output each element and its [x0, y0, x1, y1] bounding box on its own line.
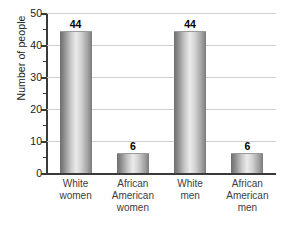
x-category-label-line: White — [158, 178, 222, 190]
y-axis-tick-labels: 01020304050 — [20, 13, 42, 173]
x-category-label-line: African — [101, 178, 165, 190]
bar-value-label: 44 — [56, 18, 96, 30]
x-category-label-line: men — [158, 190, 222, 202]
x-category-label-line: women — [101, 202, 165, 214]
bar-value-label: 6 — [227, 140, 267, 152]
x-category-label-line: African — [215, 178, 279, 190]
x-category-label-line: White — [44, 178, 108, 190]
x-category-label: Whitemen — [158, 178, 222, 202]
y-tick-label: 30 — [20, 71, 42, 83]
bar-value-label: 44 — [170, 18, 210, 30]
x-category-label-line: women — [44, 190, 108, 202]
x-category-label: AfricanAmericanwomen — [101, 178, 165, 215]
bar-chart: Number of people 01020304050 446446 Whit… — [0, 0, 285, 231]
bar — [174, 31, 206, 173]
y-tick-label: 40 — [20, 39, 42, 51]
gridline — [47, 13, 276, 14]
x-category-label: AfricanAmericanmen — [215, 178, 279, 215]
bar-value-label: 6 — [113, 140, 153, 152]
x-category-label-line: American — [215, 190, 279, 202]
x-category-label-line: American — [101, 190, 165, 202]
y-tick-label: 20 — [20, 103, 42, 115]
bar — [231, 153, 263, 173]
y-tick-label: 50 — [20, 7, 42, 19]
x-axis-line — [46, 173, 276, 175]
bar — [60, 31, 92, 173]
x-category-label: Whitewomen — [44, 178, 108, 202]
bar — [117, 153, 149, 173]
x-category-label-line: men — [215, 202, 279, 214]
y-tick-label: 0 — [20, 167, 42, 179]
y-tick-label: 10 — [20, 135, 42, 147]
